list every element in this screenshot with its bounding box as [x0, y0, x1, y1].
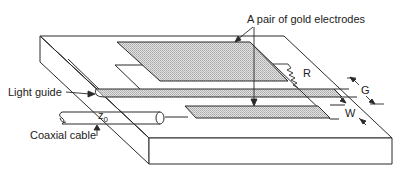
electrodes-label: A pair of gold electrodes: [247, 13, 366, 25]
cable-end-right: [156, 112, 164, 124]
substrate-front-face: [149, 138, 392, 164]
gap-label: G: [361, 84, 370, 96]
lower-gold-electrode: [185, 106, 330, 118]
light-guide-label: Light guide: [8, 86, 62, 98]
resistor-label: R: [303, 67, 311, 79]
width-label: W: [345, 107, 356, 119]
coaxial-cable-label: Coaxial cable: [30, 129, 96, 141]
light-guide: [95, 89, 342, 97]
switch-diagram: R z0 A pair of gold electrodes Light gui…: [0, 0, 402, 172]
